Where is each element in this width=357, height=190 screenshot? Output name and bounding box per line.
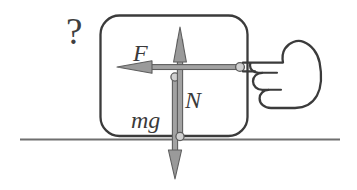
hand-outline [243, 41, 321, 108]
normal-force-label: N [184, 87, 203, 113]
weight-force-label: mg [131, 107, 160, 133]
applied-force-label: F [132, 40, 148, 66]
physics-diagram-canvas: ? F N mg [0, 0, 357, 190]
weight-force-shaft [172, 77, 177, 159]
question-mark-label: ? [66, 11, 82, 52]
weight-force-arrowhead [168, 150, 181, 179]
diagram-svg: ? F N mg [0, 0, 357, 190]
normal-force-base-dot [176, 132, 184, 140]
pointing-hand-icon [243, 41, 321, 108]
applied-force-tail-dot [236, 63, 245, 72]
applied-force-shaft [148, 65, 240, 70]
